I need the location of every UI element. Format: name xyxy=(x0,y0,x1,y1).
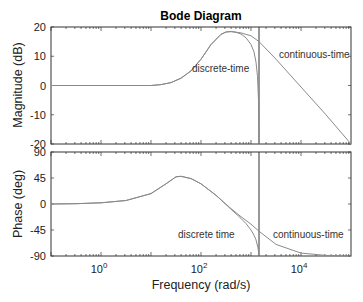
bode-figure: Bode Diagram 20100-10-20 discrete-time c… xyxy=(0,0,363,302)
magnitude-y-axis-label: Magnitude (dB) xyxy=(11,42,25,127)
phase-continuous-curve xyxy=(51,176,351,256)
y-tick-label: 10 xyxy=(34,50,46,62)
phase-axes-box xyxy=(51,152,351,256)
phase-continuous-label: continuous-time xyxy=(273,229,344,240)
y-tick-label: 45 xyxy=(34,172,46,184)
phase-discrete-curve xyxy=(51,176,259,256)
magnitude-panel: 20100-10-20 discrete-time continuous-tim… xyxy=(11,21,351,150)
x-tick-label: 104 xyxy=(291,261,308,275)
magnitude-discrete-label: discrete-time xyxy=(192,63,250,74)
y-tick-label: -10 xyxy=(30,109,46,121)
magnitude-y-tick-labels: 20100-10-20 xyxy=(30,21,46,150)
y-tick-label: 0 xyxy=(40,198,46,210)
magnitude-continuous-label: continuous-time xyxy=(279,49,350,60)
y-tick-label: -45 xyxy=(30,224,46,236)
phase-ticks xyxy=(51,152,351,256)
phase-y-axis-label: Phase (deg) xyxy=(11,170,25,238)
x-tick-label: 100 xyxy=(91,261,108,275)
x-axis-label: Frequency (rad/s) xyxy=(152,278,251,292)
x-tick-label: 102 xyxy=(191,261,208,275)
phase-y-tick-labels: 90450-45-90 xyxy=(30,146,46,262)
x-tick-labels: 100102104 xyxy=(91,261,308,275)
magnitude-discrete-curve xyxy=(51,32,259,144)
y-tick-label: 0 xyxy=(40,80,46,92)
y-tick-label: 90 xyxy=(34,146,46,158)
chart-title: Bode Diagram xyxy=(160,9,241,23)
phase-discrete-label: discrete time xyxy=(178,229,235,240)
y-tick-label: -90 xyxy=(30,250,46,262)
y-tick-label: 20 xyxy=(34,21,46,33)
phase-panel: 90450-45-90 discrete time continuous-tim… xyxy=(11,146,351,262)
